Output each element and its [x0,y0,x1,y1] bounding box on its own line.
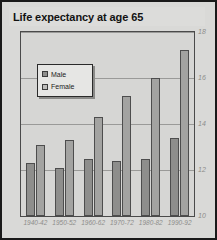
y-axis-tick-label: 16 [198,74,206,81]
chart-frame: Life expectancy at age 65 1940-421950-52… [0,0,217,240]
bar-group [50,32,79,216]
x-axis: 1940-421950-521960-621970-721980-821990-… [20,219,195,231]
bar-male [141,159,150,217]
x-axis-tick-label: 1950-52 [52,219,76,226]
bar-male [112,161,121,216]
bar-group [79,32,108,216]
bar-female [65,140,74,216]
legend-swatch-female-icon [42,84,48,90]
bar-male [170,138,179,216]
legend-swatch-male-icon [42,71,48,77]
legend-item-male: Male [42,71,88,78]
x-axis-tick-label: 1960-62 [81,219,105,226]
x-axis-tick-label: 1990-92 [168,219,192,226]
bars-layer [21,32,194,216]
bar-female [180,50,189,216]
bar-female [36,145,45,216]
legend-item-female: Female [42,83,88,90]
legend-label-female: Female [51,83,74,90]
bar-female [122,96,131,216]
page-title: Life expectancy at age 65 [9,11,143,23]
bar-male [26,163,35,216]
bar-male [55,168,64,216]
y-axis-tick-label: 10 [198,212,206,219]
y-axis-tick-label: 14 [198,120,206,127]
bar-group [136,32,165,216]
bar-female [151,78,160,216]
legend-label-male: Male [51,71,66,78]
x-axis-tick-label: 1980-82 [139,219,163,226]
bar-male [84,159,93,217]
x-axis-tick-label: 1970-72 [110,219,134,226]
y-axis-tick-label: 18 [198,28,206,35]
bar-group [21,32,50,216]
chart-title-box: Life expectancy at age 65 [9,7,205,26]
y-axis-tick-label: 12 [198,166,206,173]
bar-group [165,32,194,216]
x-axis-tick-label: 1940-42 [23,219,47,226]
bar-female [94,117,103,216]
bar-group [108,32,137,216]
plot-area [20,31,195,217]
chart-legend: Male Female [37,64,93,97]
